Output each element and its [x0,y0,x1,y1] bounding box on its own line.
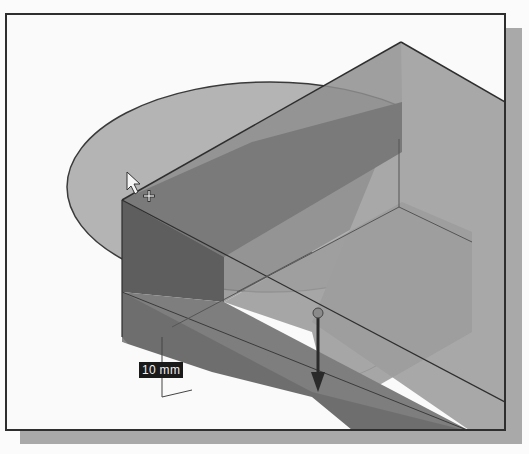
dimension-input-label[interactable]: 10 mm [139,362,183,378]
3d-scene[interactable] [7,15,504,429]
3d-viewport[interactable]: 10 mm [5,13,506,431]
sphere-handle-icon[interactable] [313,308,323,318]
